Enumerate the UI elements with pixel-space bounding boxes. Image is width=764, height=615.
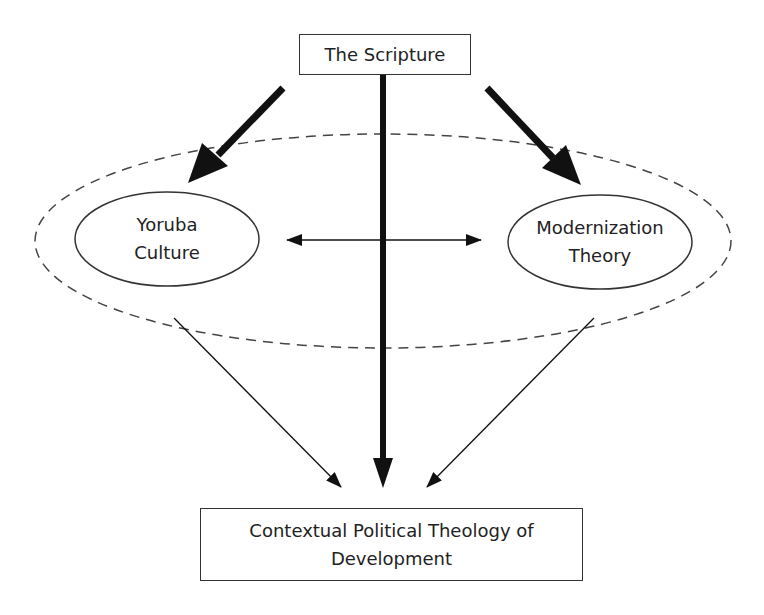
node-modernization-theory-line2: Theory [569,242,632,270]
node-outcome-line2: Development [331,545,452,573]
arrow-scripture-to-yoruba [188,88,283,183]
node-outcome-line1: Contextual Political Theology of [249,517,533,545]
arrow-scripture-to-modernization [487,88,581,185]
arrow-yoruba-to-outcome [174,318,341,487]
node-the-scripture-label: The Scripture [325,41,446,69]
node-yoruba-culture: Yoruba Culture [75,192,259,286]
node-modernization-theory: Modernization Theory [508,195,692,289]
node-the-scripture: The Scripture [299,34,471,75]
node-yoruba-culture-line2: Culture [134,239,200,267]
node-yoruba-culture-line1: Yoruba [137,211,198,239]
node-contextual-political-theology: Contextual Political Theology of Develop… [200,508,583,581]
node-modernization-theory-line1: Modernization [536,214,664,242]
arrow-modernization-to-outcome [427,318,594,487]
arrow-scripture-to-outcome [373,48,393,488]
